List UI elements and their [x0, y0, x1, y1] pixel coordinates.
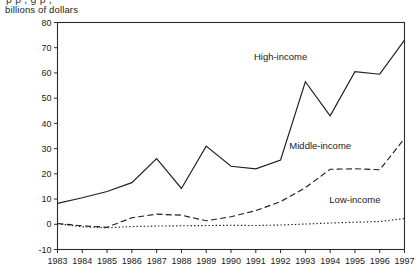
y-tick-label: 10 — [41, 194, 51, 204]
y-tick-label: 20 — [41, 169, 51, 179]
x-tick-label: 1997 — [394, 256, 414, 266]
line-chart-plot: -1001020304050607080 1983198419851986198… — [0, 0, 418, 275]
x-tick-label: 1995 — [345, 256, 365, 266]
y-tick-label: 80 — [41, 18, 51, 28]
x-tick-label: 1994 — [320, 256, 340, 266]
x-tick-label: 1990 — [221, 256, 241, 266]
x-tick-label: 1985 — [97, 256, 117, 266]
y-tick-label: 40 — [41, 119, 51, 129]
y-tick-label: 70 — [41, 43, 51, 53]
x-axis-tick-group: 1983198419851986198719881989199019911992… — [47, 250, 414, 266]
x-tick-label: 1989 — [196, 256, 216, 266]
x-tick-label: 1987 — [147, 256, 167, 266]
x-tick-label: 1988 — [171, 256, 191, 266]
y-tick-label: 60 — [41, 68, 51, 78]
series-line-low-income — [58, 218, 405, 227]
y-tick-label: 30 — [41, 144, 51, 154]
plot-frame — [58, 23, 405, 250]
series-label-low-income: Low-income — [329, 194, 380, 205]
x-tick-label: 1983 — [47, 256, 67, 266]
series-line-middle-income — [58, 139, 405, 228]
series-line-high-income — [58, 40, 405, 203]
series-label-high-income: High-income — [254, 51, 307, 62]
x-tick-label: 1993 — [295, 256, 315, 266]
x-tick-label: 1996 — [370, 256, 390, 266]
y-axis-tick-group: -1001020304050607080 — [38, 18, 57, 255]
x-tick-label: 1991 — [246, 256, 266, 266]
y-tick-label: -10 — [38, 245, 51, 255]
chart-figure: p p , g p , billions of dollars -1001020… — [0, 0, 418, 275]
series-label-middle-income: Middle-income — [289, 140, 351, 151]
x-tick-label: 1986 — [122, 256, 142, 266]
series-annotation-group: High-incomeMiddle-incomeLow-income — [254, 51, 381, 205]
y-tick-label: 0 — [46, 219, 51, 229]
x-tick-label: 1992 — [271, 256, 291, 266]
y-tick-label: 50 — [41, 93, 51, 103]
x-tick-label: 1984 — [72, 256, 92, 266]
